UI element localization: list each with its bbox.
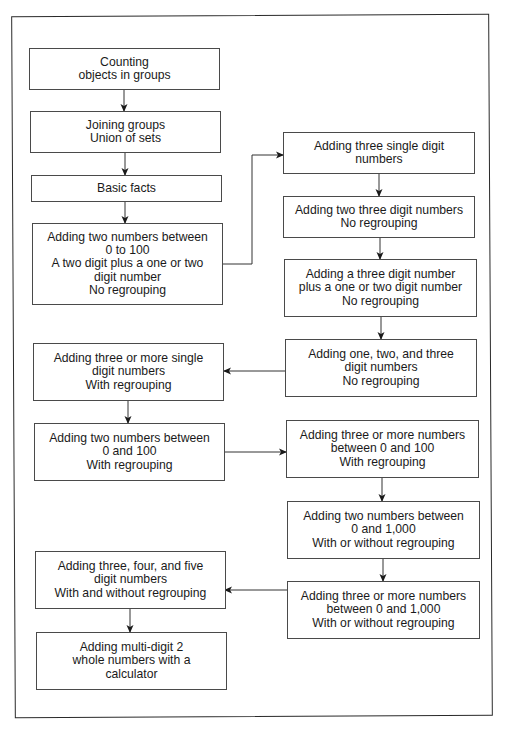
box-line: Adding three or more numbers xyxy=(301,590,466,603)
box-three-digit-plus-one-two: Adding a three digit number plus a one o… xyxy=(284,259,477,317)
box-line: digit numbers xyxy=(94,573,167,586)
box-line: With and without regrouping xyxy=(55,587,207,600)
box-line: No regrouping xyxy=(342,375,419,388)
box-two-three-digit: Adding two three digit numbers No regrou… xyxy=(283,196,475,238)
box-line: With regrouping xyxy=(86,459,172,472)
box-line: Adding three, four, and five xyxy=(58,560,204,573)
box-line: With regrouping xyxy=(339,456,425,469)
box-line: No regrouping xyxy=(342,295,419,308)
box-counting: Counting objects in groups xyxy=(29,48,220,90)
box-line: Adding two numbers between xyxy=(49,432,210,445)
box-line: between 0 and 1,000 xyxy=(327,603,441,616)
box-line: No regrouping xyxy=(89,284,166,297)
box-line: Adding three or more single xyxy=(54,352,204,365)
box-line: A two digit plus a one or two xyxy=(52,257,204,270)
box-three-or-more-0-100: Adding three or more numbers between 0 a… xyxy=(286,420,479,478)
box-line: 0 and 1,000 xyxy=(351,523,415,536)
box-two-numbers-0-1000: Adding two numbers between 0 and 1,000 W… xyxy=(287,501,480,559)
box-line: Basic facts xyxy=(97,182,156,195)
box-line: 0 to 100 xyxy=(105,244,149,257)
box-basic-facts: Basic facts xyxy=(31,175,222,202)
box-line: plus a one or two digit number xyxy=(299,281,462,294)
box-line: Joining groups xyxy=(86,119,165,132)
box-line: numbers xyxy=(355,153,402,166)
box-line: Adding a three digit number xyxy=(306,268,456,281)
box-line: digit number xyxy=(94,271,161,284)
box-three-or-more-single-regroup: Adding three or more single digit number… xyxy=(33,343,224,401)
box-line: Adding one, two, and three xyxy=(308,348,454,361)
box-line: With or without regrouping xyxy=(312,537,454,550)
box-three-or-more-0-1000: Adding three or more numbers between 0 a… xyxy=(287,581,480,639)
box-three-four-five-digit: Adding three, four, and five digit numbe… xyxy=(35,551,226,609)
box-line: Adding two numbers between xyxy=(47,231,208,244)
box-line: Union of sets xyxy=(90,132,161,145)
box-line: Adding two three digit numbers xyxy=(295,204,463,217)
box-line: Adding three single digit xyxy=(314,140,444,153)
box-line: Adding multi-digit 2 xyxy=(80,641,184,654)
box-line: With regrouping xyxy=(85,379,171,392)
box-line: between 0 and 100 xyxy=(331,442,435,455)
box-calculator: Adding multi-digit 2 whole numbers with … xyxy=(36,632,227,690)
box-line: Adding two numbers between xyxy=(303,510,464,523)
box-line: Counting xyxy=(100,56,149,69)
box-line: digit numbers xyxy=(344,361,417,374)
box-three-single-digit: Adding three single digit numbers xyxy=(283,132,475,174)
box-line: whole numbers with a xyxy=(73,654,191,667)
box-one-two-three-digit: Adding one, two, and three digit numbers… xyxy=(285,339,477,397)
box-line: 0 and 100 xyxy=(102,445,156,458)
box-line: digit numbers xyxy=(92,365,165,378)
box-line: calculator xyxy=(105,668,157,681)
box-line: Adding three or more numbers xyxy=(300,429,465,442)
box-joining: Joining groups Union of sets xyxy=(30,111,221,153)
box-two-numbers-0-100-regroup: Adding two numbers between 0 and 100 Wit… xyxy=(34,423,225,481)
box-line: objects in groups xyxy=(78,69,170,82)
box-line: With or without regrouping xyxy=(312,617,454,630)
box-line: No regrouping xyxy=(340,217,417,230)
box-two-numbers-0-100-no-regroup: Adding two numbers between 0 to 100 A tw… xyxy=(32,223,223,305)
